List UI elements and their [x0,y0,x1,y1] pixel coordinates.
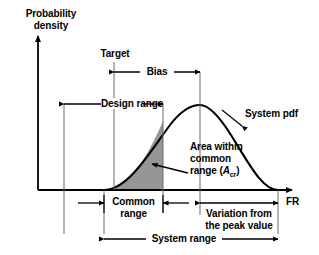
area-symbol: A [223,165,230,176]
common-range-shaded-area [104,121,163,190]
variation-label-line1: Variation from [198,208,280,219]
system-range-label: System range [146,233,222,244]
y-axis-label-line1: Probability [12,8,90,19]
y-axis-label-line2: density [12,20,90,31]
area-label-suffix: ) [236,165,239,176]
x-axis-label: FR [286,196,299,207]
area-label-line3: range (Acr) [190,165,239,180]
bias-label: Bias [140,66,174,77]
system-pdf-leader [222,110,242,126]
common-range-label-line2: range [106,208,161,219]
design-range-label: Design range [101,98,143,109]
area-label-line1: Area within [190,141,243,152]
target-label: Target [92,48,138,59]
variation-label-line2: the peak value [198,220,280,231]
area-label-line2: common [190,153,231,164]
common-range-label-line1: Common [106,196,161,207]
probability-density-diagram: Probability density FR Target Bias Desig… [0,0,319,255]
area-label-prefix: range ( [190,165,223,176]
system-pdf-label: System pdf [245,108,298,119]
